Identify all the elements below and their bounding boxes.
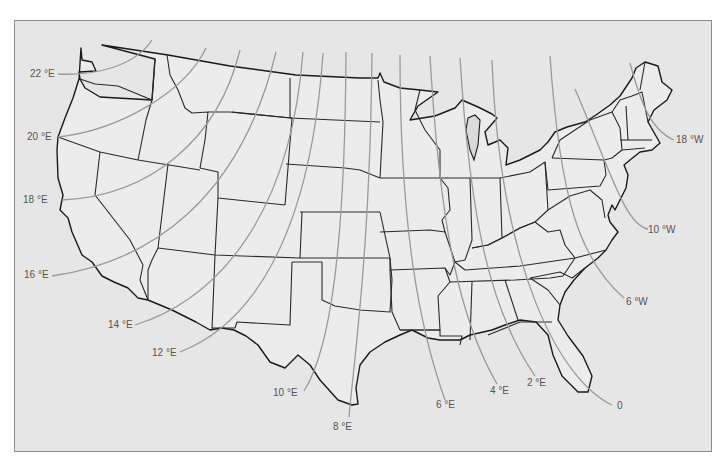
isogonic-label: 16 °E: [24, 269, 49, 280]
isogonic-label: 8 °E: [333, 421, 352, 432]
isogonic-label: 22 °E: [30, 68, 55, 79]
isogonic-label: 12 °E: [152, 347, 177, 358]
us-map: 22 °E20 °E18 °E16 °E14 °E12 °E10 °E8 °E6…: [0, 0, 725, 465]
isogonic-label: 20 °E: [27, 131, 52, 142]
isogonic-label: 6 °W: [626, 296, 648, 307]
isogonic-label: 6 °E: [436, 399, 455, 410]
isogonic-label: 18 °E: [23, 194, 48, 205]
isogonic-label: 4 °E: [490, 385, 509, 396]
isogonic-label: 18 °W: [676, 134, 704, 145]
isogonic-label: 14 °E: [108, 319, 133, 330]
isogonic-label: 10 °W: [648, 224, 676, 235]
isogonic-label: 0: [617, 400, 623, 411]
isogonic-line-22e: 22 °E: [30, 40, 152, 79]
isogonic-label: 10 °E: [273, 387, 298, 398]
isogonic-label: 2 °E: [527, 377, 546, 388]
